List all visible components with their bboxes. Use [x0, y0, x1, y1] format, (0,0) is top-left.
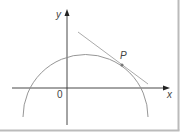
point-p-marker [120, 63, 123, 66]
y-axis-arrow-icon [65, 9, 70, 16]
tangent-line [78, 32, 148, 84]
curve-arc [23, 55, 148, 117]
point-p-label: P [120, 50, 127, 61]
x-axis [12, 86, 170, 91]
y-axis [65, 9, 70, 125]
origin-label: 0 [57, 89, 63, 100]
diagram-svg: y x 0 P [0, 0, 181, 133]
y-axis-label: y [55, 9, 62, 20]
x-axis-label: x [166, 89, 173, 100]
figure-canvas: y x 0 P [0, 0, 181, 133]
